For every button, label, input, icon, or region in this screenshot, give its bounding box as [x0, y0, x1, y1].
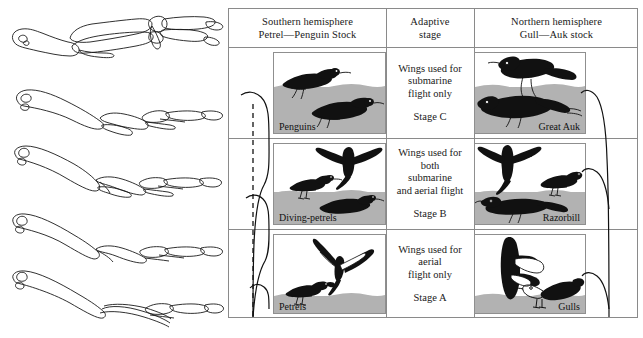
table-row-stage-b: Diving-petrels Wings used for both subma…	[229, 139, 637, 230]
header-line-2: Petrel—Penguin Stock	[259, 29, 357, 42]
figure-caption	[150, 329, 643, 338]
species-label: Penguins	[279, 121, 316, 132]
stage-name: Stage B	[414, 208, 447, 221]
header-line-1: Adaptive	[410, 16, 449, 29]
table-row-stage-a: Petrels Wings used for aerial flight onl…	[229, 230, 637, 318]
header-southern-hemisphere: Southern hemisphere Petrel—Penguin Stock	[229, 9, 386, 48]
phylogeny-gutter-right	[586, 48, 639, 138]
adaptive-stage-b: Wings used for both submarine and aerial…	[386, 139, 474, 229]
phylogeny-gutter-right	[586, 230, 639, 318]
header-northern-hemisphere: Northern hemisphere Gull—Auk stock	[474, 9, 639, 48]
illustration-penguins: Penguins	[273, 52, 386, 134]
illustration-great-auk: Great Auk	[474, 52, 586, 134]
header-line-2: stage	[419, 29, 441, 42]
species-label: Diving-petrels	[279, 212, 337, 223]
phylogeny-gutter-left	[229, 230, 273, 318]
phylogeny-gutter-left	[229, 139, 273, 229]
species-label: Razorbill	[543, 212, 580, 223]
stage-description: Wings used for submarine flight only	[398, 63, 462, 101]
phylogeny-gutter-right	[586, 139, 639, 229]
species-label: Great Auk	[539, 121, 580, 132]
header-adaptive-stage: Adaptive stage	[386, 9, 474, 48]
wing-skeleton-4	[0, 202, 226, 268]
phylogeny-gutter-left	[229, 48, 273, 138]
wing-skeleton-1	[0, 6, 226, 72]
table-header-row: Southern hemisphere Petrel—Penguin Stock…	[229, 9, 637, 48]
stage-description: Wings used for both submarine and aerial…	[397, 147, 463, 197]
stage-name: Stage A	[414, 292, 447, 305]
wing-skeleton-5	[0, 262, 226, 328]
stage-name: Stage C	[414, 111, 447, 124]
illustration-razorbill: Razorbill	[474, 143, 586, 225]
illustration-diving-petrels: Diving-petrels	[273, 143, 386, 225]
header-line-2: Gull—Auk stock	[520, 29, 593, 42]
wing-skeleton-series	[0, 0, 226, 322]
species-label: Gulls	[558, 301, 580, 312]
illustration-gulls: Gulls	[474, 234, 586, 314]
figure-root: Southern hemisphere Petrel—Penguin Stock…	[0, 0, 643, 338]
header-line-1: Northern hemisphere	[511, 16, 602, 29]
wing-skeleton-2	[0, 72, 226, 138]
stage-description: Wings used for aerial flight only	[398, 244, 462, 282]
header-line-1: Southern hemisphere	[262, 16, 353, 29]
comparison-table: Southern hemisphere Petrel—Penguin Stock…	[228, 8, 638, 318]
illustration-petrels: Petrels	[273, 234, 386, 314]
table-row-stage-c: Penguins Wings used for submarine flight…	[229, 48, 637, 139]
adaptive-stage-c: Wings used for submarine flight only Sta…	[386, 48, 474, 138]
wing-skeleton-3	[0, 138, 226, 204]
adaptive-stage-a: Wings used for aerial flight only Stage …	[386, 230, 474, 318]
species-label: Petrels	[279, 301, 306, 312]
